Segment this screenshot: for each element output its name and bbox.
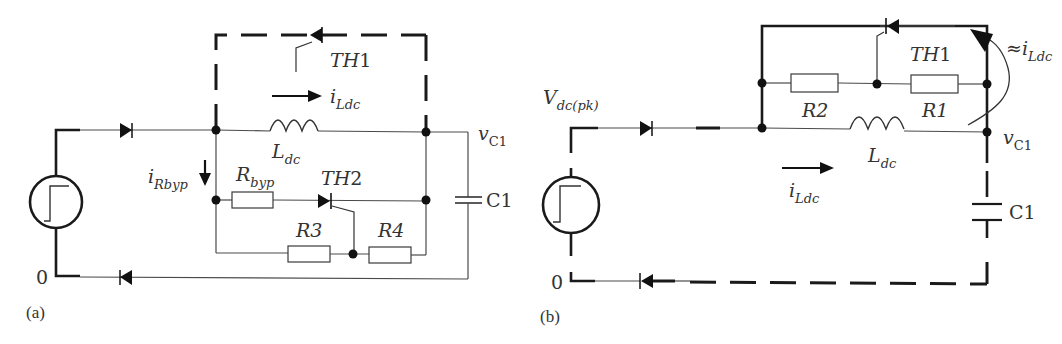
dashed-return-path xyxy=(690,282,987,284)
inductor-ldc-icon xyxy=(850,117,904,129)
i-ldc-label: iLdc xyxy=(789,179,820,206)
diode-bottom-icon xyxy=(120,270,132,285)
c1-label: C1 xyxy=(1009,201,1036,223)
rbyp-label: Rbyp xyxy=(235,163,275,190)
wire xyxy=(904,131,987,132)
resistor-r2-icon xyxy=(791,74,838,92)
junction-dot xyxy=(349,250,358,259)
approx-i-ldc-label: ≈iLdc xyxy=(1006,37,1053,64)
bottom-return-wire xyxy=(80,277,468,279)
i-ldc-label: iLdc xyxy=(330,85,361,112)
thyristor-th2-icon xyxy=(318,193,354,253)
r3-label: R3 xyxy=(295,219,322,241)
junction-dot xyxy=(758,124,767,133)
vc1-label: vC1 xyxy=(478,122,507,149)
current-arrow-down-icon xyxy=(199,160,211,186)
source-bottom-lead xyxy=(571,272,595,281)
source-bottom-lead xyxy=(56,228,80,276)
c1-label: C1 xyxy=(486,189,513,211)
circuit-figure: TH1 iLdc Ldc vC1 C1 iRbyp xyxy=(0,0,1062,344)
source-top-lead xyxy=(56,130,80,176)
ldc-label: Ldc xyxy=(867,144,897,171)
th1-label: TH1 xyxy=(330,49,371,71)
junction-dot xyxy=(983,80,992,89)
r2-label: R2 xyxy=(801,99,828,121)
th1-dashed-path-left xyxy=(216,35,426,130)
r1-label: R1 xyxy=(921,99,948,121)
wire xyxy=(762,128,850,129)
step-voltage-source-icon xyxy=(30,176,82,228)
th2-label: TH2 xyxy=(321,167,362,189)
step-voltage-source-icon xyxy=(543,177,599,233)
inductor-ldc-icon xyxy=(270,120,318,131)
resistor-r1-icon xyxy=(911,75,958,93)
thyristor-th1-icon xyxy=(877,18,899,84)
i-rbyp-label: iRbyp xyxy=(148,165,189,192)
wire xyxy=(318,131,426,132)
junction-dot xyxy=(212,196,221,205)
source-top-lead xyxy=(571,128,598,153)
panel-label-a: (a) xyxy=(26,303,45,322)
wire xyxy=(273,200,426,201)
vdc-pk-label: Vdc(pk) xyxy=(543,86,599,113)
diode-top-icon xyxy=(640,121,652,136)
junction-dot xyxy=(422,128,431,137)
diode-top-icon xyxy=(120,123,132,138)
wire xyxy=(216,130,270,131)
current-arrow-right-icon xyxy=(272,90,322,102)
ground-label-b: 0 xyxy=(551,271,563,293)
diagram-b: Vdc(pk) C1 xyxy=(540,18,1053,326)
r4-label: R4 xyxy=(377,219,404,241)
ldc-label: Ldc xyxy=(271,140,301,167)
resistor-r3-icon xyxy=(288,246,330,262)
vc1-label: vC1 xyxy=(1003,126,1032,153)
curved-arrow-head-icon xyxy=(970,29,993,52)
resistor-r4-icon xyxy=(369,247,411,263)
ground-label-a: 0 xyxy=(36,266,48,288)
th1-label: TH1 xyxy=(910,43,951,65)
diode-bottom-icon xyxy=(640,273,653,289)
junction-dot xyxy=(758,79,767,88)
panel-label-b: (b) xyxy=(540,307,560,326)
th1-outer-loop xyxy=(762,26,987,163)
junction-dot xyxy=(422,196,431,205)
junction-dot xyxy=(873,80,882,89)
current-arrow-right-icon xyxy=(782,162,834,174)
junction-dot xyxy=(983,128,992,137)
resistor-rbyp-icon xyxy=(232,192,273,208)
junction-dot xyxy=(212,126,221,135)
diagram-a: TH1 iLdc Ldc vC1 C1 iRbyp xyxy=(26,27,513,322)
